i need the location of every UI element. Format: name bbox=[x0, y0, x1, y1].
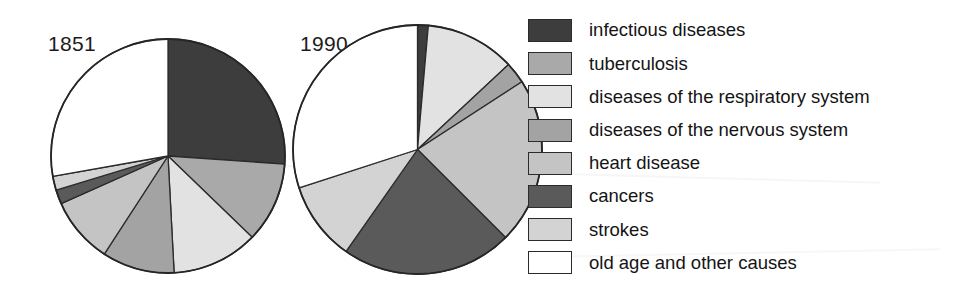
pie-chart-1851: 1851 bbox=[0, 0, 300, 298]
legend-label-strokes: strokes bbox=[589, 220, 649, 240]
legend-item-respiratory: diseases of the respiratory system bbox=[528, 80, 948, 113]
legend-item-cancers: cancers bbox=[528, 180, 948, 213]
legend-label-respiratory: diseases of the respiratory system bbox=[589, 87, 870, 107]
legend-swatch-respiratory bbox=[528, 85, 572, 108]
legend-swatch-infectious bbox=[528, 19, 572, 42]
legend-swatch-heart bbox=[528, 152, 572, 175]
pie-slice-infectious-diseases bbox=[168, 39, 285, 164]
legend-item-strokes: strokes bbox=[528, 213, 948, 246]
legend-item-nervous: diseases of the nervous system bbox=[528, 114, 948, 147]
legend-swatch-old-age bbox=[528, 251, 572, 274]
legend-item-infectious: infectious diseases bbox=[528, 14, 948, 47]
pie-slice-old-age-and-other-causes bbox=[51, 39, 168, 176]
pie-chart-1990: 1990 bbox=[290, 0, 540, 298]
legend-item-old-age: old age and other causes bbox=[528, 246, 948, 279]
legend-label-heart: heart disease bbox=[589, 153, 700, 173]
legend-label-cancers: cancers bbox=[589, 186, 654, 206]
pie-svg-1851 bbox=[48, 36, 288, 276]
pie-chart-figure: 1851 1990 infectious diseases tuberculos… bbox=[0, 0, 960, 298]
legend-item-heart: heart disease bbox=[528, 147, 948, 180]
legend-label-nervous: diseases of the nervous system bbox=[589, 120, 848, 140]
legend: infectious diseases tuberculosis disease… bbox=[528, 14, 948, 280]
legend-label-old-age: old age and other causes bbox=[589, 253, 797, 273]
legend-swatch-nervous bbox=[528, 119, 572, 142]
legend-item-tuberculosis: tuberculosis bbox=[528, 47, 948, 80]
legend-swatch-cancers bbox=[528, 185, 572, 208]
pie-svg-1990 bbox=[290, 22, 545, 277]
legend-swatch-strokes bbox=[528, 218, 572, 241]
legend-swatch-tuberculosis bbox=[528, 52, 572, 75]
legend-label-infectious: infectious diseases bbox=[589, 20, 745, 40]
legend-label-tuberculosis: tuberculosis bbox=[589, 54, 688, 74]
